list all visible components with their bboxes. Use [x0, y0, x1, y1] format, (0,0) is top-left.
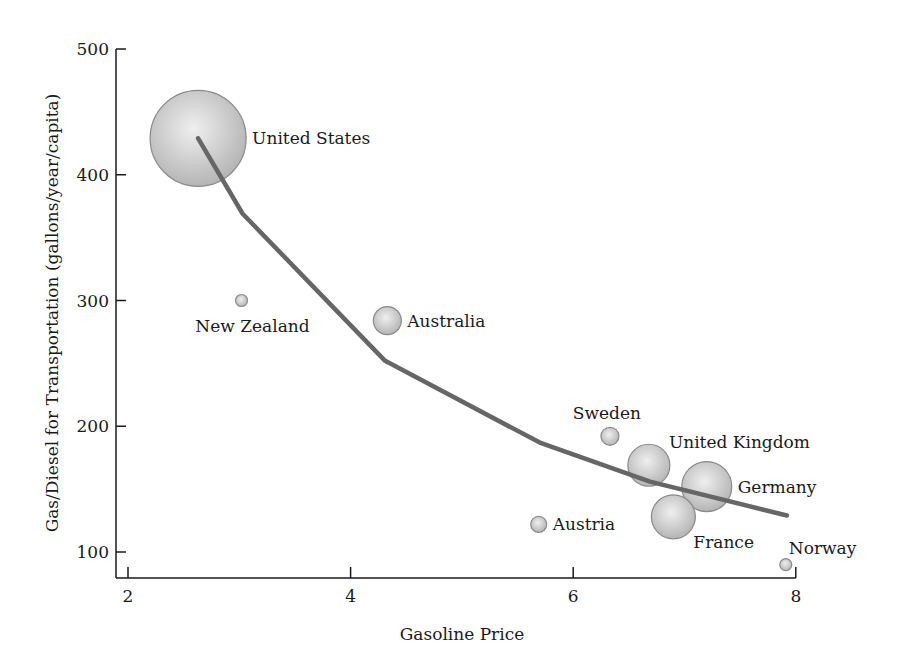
y-tick-label: 300	[77, 291, 109, 311]
point-label-austria: Austria	[552, 514, 615, 534]
bubble-new-zealand	[236, 295, 248, 307]
point-label-germany: Germany	[738, 477, 817, 497]
x-tick-label: 2	[123, 586, 134, 606]
y-tick-label: 200	[77, 416, 109, 436]
bubble-norway	[780, 559, 792, 571]
x-tick-label: 6	[568, 586, 579, 606]
bubble-sweden	[601, 427, 619, 445]
x-tick-label: 4	[345, 586, 356, 606]
point-label-new-zealand: New Zealand	[195, 316, 309, 336]
x-axis-label: Gasoline Price	[400, 624, 525, 644]
point-label-norway: Norway	[789, 538, 857, 558]
y-axis-label: Gas/Diesel for Transportation (gallons/y…	[42, 94, 62, 533]
axis-labels: Gasoline Price Gas/Diesel for Transporta…	[42, 94, 524, 644]
bubble-austria	[531, 516, 547, 532]
point-label-united-kingdom: United Kingdom	[669, 432, 810, 452]
y-tick-label: 500	[77, 39, 109, 59]
point-label-france: France	[693, 532, 754, 552]
y-tick-label: 400	[77, 165, 109, 185]
y-tick-label: 100	[77, 542, 109, 562]
bubble-france	[651, 495, 695, 539]
point-labels: United StatesNew ZealandAustraliaSwedenU…	[195, 128, 856, 557]
point-label-australia: Australia	[406, 311, 485, 331]
x-tick-label: 8	[790, 586, 801, 606]
bubble-chart: 1002003004005002468 Gasoline Price Gas/D…	[0, 0, 897, 672]
bubble-australia	[373, 307, 401, 335]
point-label-united-states: United States	[252, 128, 370, 148]
point-label-sweden: Sweden	[573, 403, 641, 423]
